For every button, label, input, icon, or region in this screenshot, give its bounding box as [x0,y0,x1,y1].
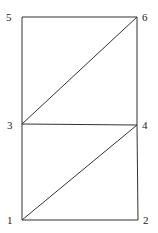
edge-2-4 [137,125,138,220]
node-label-6: 6 [142,11,148,23]
mesh-diagram: 123456 [0,0,158,233]
edge-3-6 [22,17,137,124]
edges [22,17,138,220]
edge-1-4 [22,125,137,220]
node-label-5: 5 [6,11,12,23]
node-label-2: 2 [143,214,149,226]
edge-4-3 [22,124,137,125]
node-label-1: 1 [7,214,13,226]
node-label-4: 4 [142,119,148,131]
node-label-3: 3 [7,119,13,131]
